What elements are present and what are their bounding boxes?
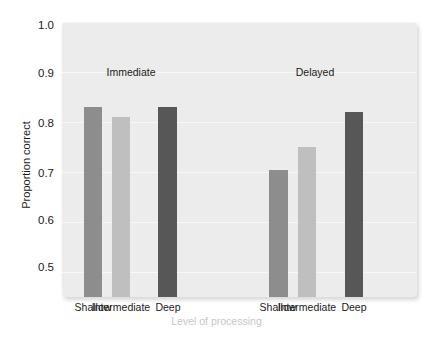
gridline-1.0 <box>62 22 417 23</box>
x-tick-label-delayed-deep: Deep <box>341 301 366 313</box>
group-label-delayed: Delayed <box>296 66 335 78</box>
y-tick-label: 0.8 <box>38 117 54 129</box>
bar-immediate-intermediate <box>112 117 130 297</box>
y-tick-label: 0.6 <box>38 214 54 226</box>
bar-delayed-deep <box>345 112 363 297</box>
y-tick-label: 0.7 <box>38 167 54 179</box>
y-tick-label: 0.9 <box>38 67 54 79</box>
bar-immediate-shallow <box>84 107 102 297</box>
x-tick-label-immediate-deep: Deep <box>155 301 180 313</box>
bar-immediate-deep <box>158 107 177 297</box>
x-tick-label-immediate-intermediate: Intermediate <box>92 301 150 313</box>
bar-chart-figure: Immediate Delayed 1.0 0.9 0.8 0.7 0.6 0.… <box>0 0 433 342</box>
x-tick-label-delayed-intermediate: Intermediate <box>278 301 336 313</box>
group-label-immediate: Immediate <box>106 66 155 78</box>
y-axis-title: Proportion correct <box>20 90 32 240</box>
x-axis-title: Level of processing <box>0 315 433 327</box>
y-tick-label: 1.0 <box>38 19 54 31</box>
y-tick-label: 0.5 <box>38 261 54 273</box>
bar-delayed-intermediate <box>298 147 316 297</box>
plot-area: Immediate Delayed <box>62 22 417 297</box>
bar-delayed-shallow <box>269 170 288 298</box>
